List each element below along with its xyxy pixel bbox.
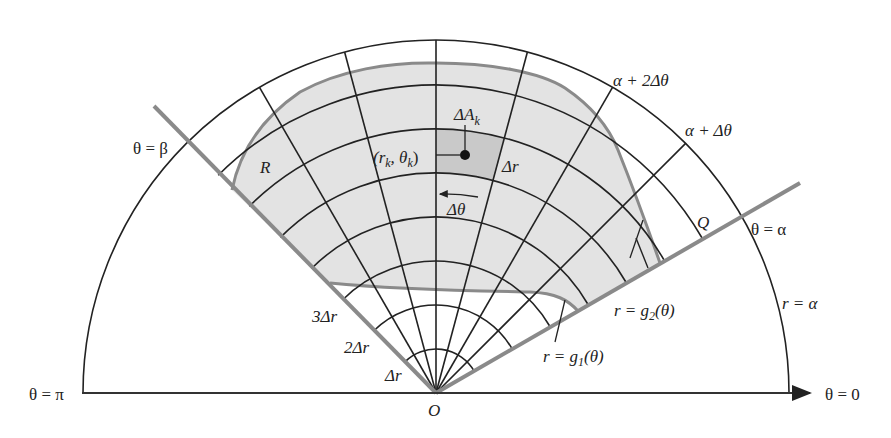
polar-region-diagram: θ = β θ = π θ = 0 θ = α r = α R (rk, θk)… <box>0 0 891 438</box>
label-delta-r: Δr <box>501 157 519 176</box>
label-theta-pi: θ = π <box>29 385 64 404</box>
point-rk-thetak <box>460 150 470 160</box>
label-theta-alpha: θ = α <box>751 220 786 239</box>
label-1-delta-r: Δr <box>384 366 402 385</box>
label-alpha-plus-2dtheta: α + 2Δθ <box>613 71 669 90</box>
label-g1: r = g1(θ) <box>543 347 604 369</box>
label-r-alpha: r = α <box>782 294 819 313</box>
region-R-fill <box>232 63 660 311</box>
label-2-delta-r: 2Δr <box>344 338 369 357</box>
label-theta-beta: θ = β <box>133 139 168 158</box>
label-origin-O: O <box>428 401 440 420</box>
label-g2: r = g2(θ) <box>614 301 675 323</box>
label-region-R: R <box>259 158 271 177</box>
label-theta-zero: θ = 0 <box>825 385 860 404</box>
label-3-delta-r: 3Δr <box>311 307 337 326</box>
label-Q: Q <box>697 213 709 232</box>
label-delta-theta: Δθ <box>446 200 465 219</box>
label-alpha-plus-dtheta: α + Δθ <box>685 121 732 140</box>
